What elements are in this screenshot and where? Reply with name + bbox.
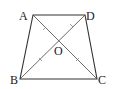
diagonal-bd	[20, 15, 85, 79]
trapezoid-diagram: A D B C O	[0, 0, 117, 89]
label-d: D	[86, 9, 95, 23]
label-c: C	[98, 73, 106, 87]
diagonal-ac	[33, 15, 97, 79]
tick-ao	[43, 27, 46, 30]
label-a: A	[19, 9, 28, 23]
label-b: B	[10, 73, 18, 87]
label-o: O	[54, 44, 63, 58]
tick-do	[70, 24, 73, 27]
